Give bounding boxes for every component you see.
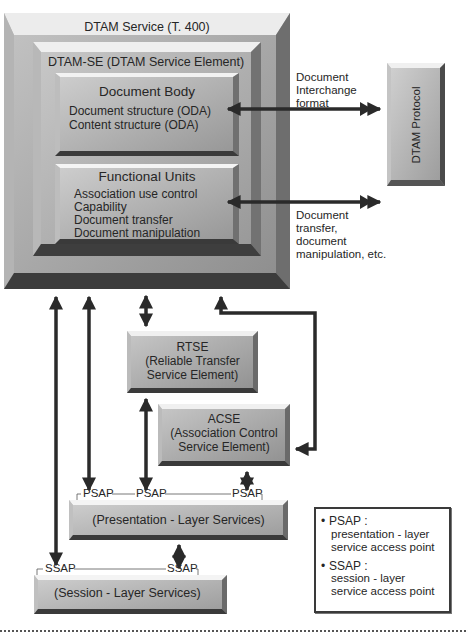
service-acse-connector xyxy=(221,297,315,449)
interchange-arrow xyxy=(228,102,380,116)
dotted-divider xyxy=(0,630,466,632)
transfer-arrow xyxy=(228,195,380,209)
sap-tab-outlines xyxy=(37,494,262,575)
connector-overlay xyxy=(0,0,466,640)
